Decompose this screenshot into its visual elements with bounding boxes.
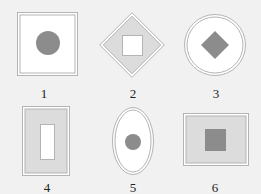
inner-square [123, 36, 143, 56]
figure-1 [18, 13, 78, 76]
figure-label-4: 4 [37, 181, 57, 194]
figure-4 [23, 107, 70, 176]
inner-rect [41, 125, 55, 160]
figure-label-3: 3 [206, 87, 226, 101]
figure-3 [185, 15, 246, 76]
figure-label-1: 1 [34, 87, 54, 101]
inner-circle [125, 134, 141, 150]
figure-2 [100, 13, 165, 78]
figure-label-2: 2 [123, 87, 143, 101]
inner-circle [36, 31, 60, 55]
inner-square [205, 129, 226, 151]
figure-5 [113, 108, 154, 175]
figure-6 [184, 114, 249, 166]
figure-label-6: 6 [205, 181, 225, 194]
figure-label-5: 5 [123, 181, 143, 194]
